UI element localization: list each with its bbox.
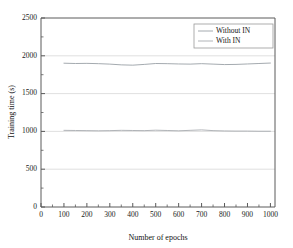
x-tick-label-200: 200 bbox=[81, 210, 93, 219]
x-tick-label-0: 0 bbox=[39, 210, 43, 219]
legend-label-without-in: Without IN bbox=[216, 26, 251, 35]
x-tick-label-600: 600 bbox=[173, 210, 185, 219]
x-tick-label-300: 300 bbox=[104, 210, 116, 219]
x-tick-label-700: 700 bbox=[196, 210, 208, 219]
y-tick-label-0: 0 bbox=[33, 202, 37, 211]
x-tick-label-100: 100 bbox=[58, 210, 70, 219]
x-tick-label-500: 500 bbox=[150, 210, 162, 219]
y-tick-label-1500: 1500 bbox=[22, 88, 37, 97]
x-tick-label-400: 400 bbox=[127, 210, 139, 219]
legend-label-with-in: With IN bbox=[216, 36, 241, 45]
y-tick-label-2500: 2500 bbox=[22, 13, 37, 22]
training-time-line-chart: 05001000150020002500 0100200300400500600… bbox=[0, 0, 293, 248]
x-tick-label-1000: 1000 bbox=[263, 210, 278, 219]
y-tick-label-2000: 2000 bbox=[22, 51, 37, 60]
y-tick-label-1000: 1000 bbox=[22, 126, 37, 135]
y-tick-label-500: 500 bbox=[26, 164, 38, 173]
x-tick-label-900: 900 bbox=[242, 210, 254, 219]
y-axis-title: Training time (s) bbox=[7, 85, 16, 139]
x-axis-title: Number of epochs bbox=[128, 233, 187, 242]
x-tick-label-800: 800 bbox=[219, 210, 231, 219]
chart-legend[interactable]: Without IN With IN bbox=[194, 24, 273, 48]
chart-figure: 05001000150020002500 0100200300400500600… bbox=[0, 0, 293, 248]
